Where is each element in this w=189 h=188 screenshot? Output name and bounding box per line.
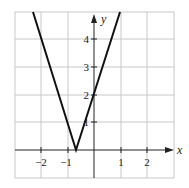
x-tick-label: −2 (35, 156, 47, 168)
x-tick-label: −1 (60, 156, 72, 168)
graph: −2 −1 1 2 1 2 3 4 x y (0, 0, 189, 188)
x-tick-label: 1 (118, 156, 124, 168)
function-curve (33, 12, 120, 150)
x-axis-label: x (176, 143, 183, 157)
x-axis-arrow-icon (165, 147, 174, 153)
y-tick-label: 2 (84, 89, 90, 101)
y-axis-label: y (100, 12, 107, 26)
y-tick-label: 4 (84, 33, 90, 45)
y-tick-label: 3 (84, 61, 90, 73)
x-tick-label: 2 (144, 156, 150, 168)
y-axis-arrow-icon (91, 14, 97, 23)
